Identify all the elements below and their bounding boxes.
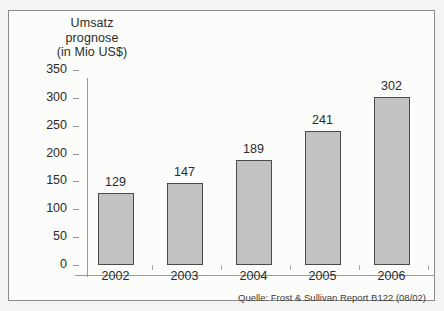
y-axis-tick bbox=[73, 265, 79, 266]
y-axis-tick bbox=[73, 126, 79, 127]
x-axis-separator-tick bbox=[290, 265, 291, 270]
bar-2002[interactable] bbox=[98, 193, 134, 265]
bar-2003[interactable] bbox=[167, 183, 203, 265]
y-axis-tick-label: 200 bbox=[33, 146, 67, 160]
bar-2004[interactable] bbox=[236, 160, 272, 265]
bar-value-label-2006: 302 bbox=[366, 79, 418, 93]
bar-2006[interactable] bbox=[374, 97, 410, 265]
bar-value-label-2003: 147 bbox=[159, 165, 211, 179]
x-axis-label-2006: 2006 bbox=[362, 269, 422, 283]
y-axis-tick bbox=[73, 237, 79, 238]
y-axis-tick-label: 350 bbox=[33, 62, 67, 76]
title-line-2: prognose bbox=[31, 31, 153, 46]
y-axis-tick bbox=[73, 209, 79, 210]
chart-title: Umsatz prognose (in Mio US$) Umsatz prog… bbox=[31, 16, 153, 60]
x-axis-label-2002: 2002 bbox=[86, 269, 146, 283]
x-axis-label-2003: 2003 bbox=[155, 269, 215, 283]
y-axis-tick-label: 0 bbox=[33, 257, 67, 271]
figure-frame: Umsatz prognose (in Mio US$) Umsatz prog… bbox=[8, 10, 435, 301]
bar-value-label-2004: 189 bbox=[228, 142, 280, 156]
y-axis-tick bbox=[73, 98, 79, 99]
x-axis-separator-tick bbox=[359, 265, 360, 270]
y-axis-tick-label: 250 bbox=[33, 118, 67, 132]
x-axis-separator-tick bbox=[221, 265, 222, 270]
source-note: Quelle: Frost & Sullivan Report B122 (08… bbox=[238, 292, 426, 303]
x-axis-separator-tick bbox=[428, 265, 429, 270]
title-line-3: (in Mio US$) bbox=[31, 45, 153, 60]
bar-value-label-2002: 129 bbox=[90, 175, 142, 189]
y-axis-tick bbox=[73, 70, 79, 71]
y-axis-tick-label: 300 bbox=[33, 90, 67, 104]
y-axis-tick bbox=[73, 181, 79, 182]
y-axis-tick-label: 100 bbox=[33, 201, 67, 215]
x-axis-label-2004: 2004 bbox=[224, 269, 284, 283]
x-axis-label-2005: 2005 bbox=[293, 269, 353, 283]
y-axis-line bbox=[87, 78, 88, 277]
bar-2005[interactable] bbox=[305, 131, 341, 265]
y-axis-tick-label: 50 bbox=[33, 229, 67, 243]
title-line-1: Umsatz bbox=[31, 16, 153, 31]
bar-value-label-2005: 241 bbox=[297, 113, 349, 127]
scanned-page: Umsatz prognose (in Mio US$) Umsatz prog… bbox=[0, 0, 444, 311]
y-axis-tick bbox=[73, 154, 79, 155]
y-axis-tick-label: 150 bbox=[33, 173, 67, 187]
x-axis-separator-tick bbox=[152, 265, 153, 270]
